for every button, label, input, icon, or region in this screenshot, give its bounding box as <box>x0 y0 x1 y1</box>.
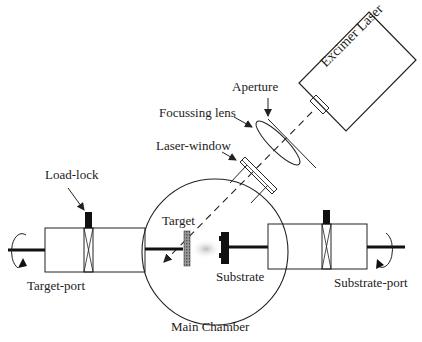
target-port <box>8 212 183 272</box>
label-substrate: Substrate <box>216 270 264 283</box>
label-aperture: Aperture <box>232 80 278 93</box>
target <box>184 231 190 266</box>
plasma-plume <box>191 239 221 259</box>
label-load-lock: Load-lock <box>45 168 98 181</box>
label-main-chamber: Main Chamber <box>171 320 249 333</box>
label-target-port: Target-port <box>27 279 85 292</box>
window-arrow <box>222 152 236 160</box>
laser-window <box>230 157 277 203</box>
load-lock-arrow <box>68 188 84 210</box>
substrate <box>219 232 268 264</box>
pld-diagram: Excimer Laser Aperture Focussing lens La… <box>0 0 422 342</box>
lens-arrow <box>234 117 252 127</box>
label-substrate-port: Substrate-port <box>334 276 408 289</box>
focussing-lens <box>251 116 305 170</box>
label-laser-window: Laser-window <box>156 139 231 152</box>
load-lock-valve-left <box>85 212 92 228</box>
label-target: Target <box>162 214 195 227</box>
label-focussing-lens: Focussing lens <box>159 106 236 119</box>
load-lock-valve-right <box>323 210 330 224</box>
aperture <box>268 119 316 168</box>
substrate-port <box>268 210 405 269</box>
